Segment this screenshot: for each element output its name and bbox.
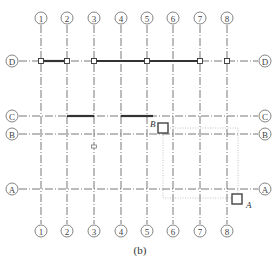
column-label-bottom-5: 5 (141, 225, 153, 237)
svg-text:7: 7 (198, 14, 203, 24)
marker-A: A (232, 194, 252, 210)
figure-caption: (b) (0, 244, 280, 256)
svg-text:2: 2 (65, 14, 70, 24)
svg-text:4: 4 (119, 227, 124, 237)
svg-text:5: 5 (145, 227, 150, 237)
column-label-top-8: 8 (221, 12, 233, 24)
svg-text:3: 3 (92, 14, 97, 24)
row-label-left-A: A (6, 183, 18, 195)
axis-labels: 1122334455667788DDCCBBAA (6, 12, 271, 237)
column-label-top-3: 3 (88, 12, 100, 24)
node-d-5 (145, 59, 150, 64)
svg-text:6: 6 (171, 227, 176, 237)
column-label-top-1: 1 (35, 12, 47, 24)
column-label-bottom-3: 3 (88, 225, 100, 237)
svg-text:A: A (262, 185, 269, 195)
row-label-right-B: B (259, 128, 271, 140)
row-label-left-B: B (6, 128, 18, 140)
svg-text:7: 7 (198, 227, 203, 237)
row-label-left-C: C (6, 110, 18, 122)
row-label-right-A: A (259, 183, 271, 195)
node-d-7 (198, 59, 203, 64)
node-d-3 (92, 59, 97, 64)
column-label-bottom-8: 8 (221, 225, 233, 237)
svg-text:6: 6 (171, 14, 176, 24)
row-grid-lines (19, 61, 258, 189)
svg-text:D: D (9, 57, 16, 67)
row-label-left-D: D (6, 55, 18, 67)
row-label-right-C: C (259, 110, 271, 122)
svg-text:B: B (262, 130, 268, 140)
column-label-top-5: 5 (141, 12, 153, 24)
svg-text:3: 3 (92, 227, 97, 237)
column-label-bottom-4: 4 (115, 225, 127, 237)
svg-text:D: D (262, 57, 269, 67)
svg-text:C: C (9, 112, 15, 122)
column-label-top-7: 7 (194, 12, 206, 24)
column-label-bottom-7: 7 (194, 225, 206, 237)
small-element (92, 145, 97, 148)
column-label-bottom-1: 1 (35, 225, 47, 237)
svg-text:C: C (262, 112, 268, 122)
svg-text:1: 1 (39, 14, 44, 24)
column-label-bottom-2: 2 (61, 225, 73, 237)
column-label-top-4: 4 (115, 12, 127, 24)
svg-text:2: 2 (65, 227, 70, 237)
node-d-2 (65, 59, 70, 64)
svg-text:B: B (9, 130, 15, 140)
marker-B: B (150, 119, 168, 133)
node-d-8 (225, 59, 230, 64)
column-label-top-6: 6 (167, 12, 179, 24)
svg-text:A: A (9, 185, 16, 195)
svg-text:8: 8 (225, 227, 230, 237)
svg-text:1: 1 (39, 227, 44, 237)
svg-text:4: 4 (119, 14, 124, 24)
column-grid-lines (41, 25, 227, 224)
row-label-right-D: D (259, 55, 271, 67)
svg-text:B: B (150, 119, 156, 129)
column-label-top-2: 2 (61, 12, 73, 24)
svg-text:5: 5 (145, 14, 150, 24)
svg-text:8: 8 (225, 14, 230, 24)
markers: BA (150, 119, 252, 210)
column-label-bottom-6: 6 (167, 225, 179, 237)
node-d-1 (39, 59, 44, 64)
svg-text:A: A (245, 200, 252, 210)
grid-plan-diagram: BA 1122334455667788DDCCBBAA (0, 0, 280, 266)
